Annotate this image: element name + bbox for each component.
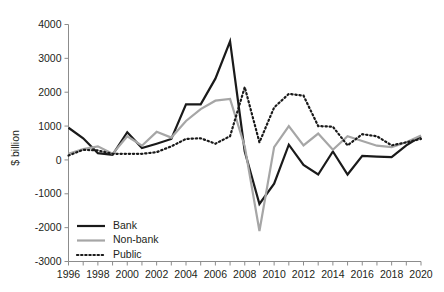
x-tick-label: 2020 bbox=[409, 268, 433, 280]
y-tick-label: 0 bbox=[56, 154, 62, 166]
y-tick-label: 3000 bbox=[38, 52, 62, 64]
chart-container: 40003000200010000-1000-2000-3000 1996199… bbox=[0, 0, 444, 292]
x-tick-group: 1996199820002002200420062008201020122014… bbox=[57, 262, 433, 280]
series-line-bank bbox=[69, 41, 422, 204]
series-line-non-bank bbox=[69, 99, 422, 231]
x-axis: 1996199820002002200420062008201020122014… bbox=[57, 262, 433, 280]
y-tick-label: -3000 bbox=[35, 255, 62, 267]
x-tick-label: 2016 bbox=[351, 268, 375, 280]
y-tick-label: 1000 bbox=[38, 120, 62, 132]
x-tick-label: 2000 bbox=[116, 268, 140, 280]
y-axis-title: $ billion bbox=[9, 130, 21, 166]
x-tick-label: 2006 bbox=[204, 268, 228, 280]
y-tick-label: 2000 bbox=[38, 86, 62, 98]
y-tick-group: 40003000200010000-1000-2000-3000 bbox=[35, 18, 69, 267]
x-tick-label: 1998 bbox=[86, 268, 110, 280]
series-group bbox=[69, 41, 422, 231]
x-tick-label: 2014 bbox=[321, 268, 345, 280]
chart-legend: BankNon-bankPublic bbox=[77, 219, 159, 260]
y-tick-label: -2000 bbox=[35, 221, 62, 233]
x-tick-label: 2004 bbox=[174, 268, 198, 280]
y-tick-label: 4000 bbox=[38, 18, 62, 30]
x-tick-label: 2018 bbox=[380, 268, 404, 280]
legend-label-bank: Bank bbox=[113, 219, 138, 231]
x-tick-label: 2012 bbox=[292, 268, 316, 280]
x-tick-label: 2010 bbox=[262, 268, 286, 280]
x-tick-label: 2002 bbox=[145, 268, 169, 280]
x-tick-label: 2008 bbox=[233, 268, 257, 280]
legend-label-public: Public bbox=[113, 248, 142, 260]
x-tick-label: 1996 bbox=[57, 268, 81, 280]
legend-label-non-bank: Non-bank bbox=[113, 233, 159, 245]
y-axis: 40003000200010000-1000-2000-3000 bbox=[35, 18, 69, 267]
y-tick-label: -1000 bbox=[35, 187, 62, 199]
line-chart: 40003000200010000-1000-2000-3000 1996199… bbox=[0, 0, 444, 292]
